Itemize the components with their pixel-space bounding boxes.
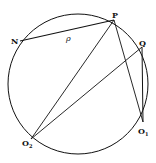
segment-P-O2 — [31, 20, 114, 139]
circumcircle — [8, 14, 148, 154]
label-rho: ρ — [65, 34, 71, 43]
label-O1-main: O — [138, 126, 145, 136]
segment-Q-O2 — [31, 47, 142, 139]
label-O1: O1 — [138, 126, 148, 137]
label-O2-main: O — [22, 138, 29, 148]
circle-chord-diagram: N P Q ρ O1 O2 — [0, 0, 156, 163]
label-O2: O2 — [22, 138, 33, 149]
label-O2-sub: 2 — [29, 143, 33, 149]
label-O1-sub: 1 — [145, 131, 148, 137]
label-N: N — [11, 36, 18, 46]
label-P: P — [112, 10, 118, 20]
label-Q: Q — [139, 38, 146, 48]
